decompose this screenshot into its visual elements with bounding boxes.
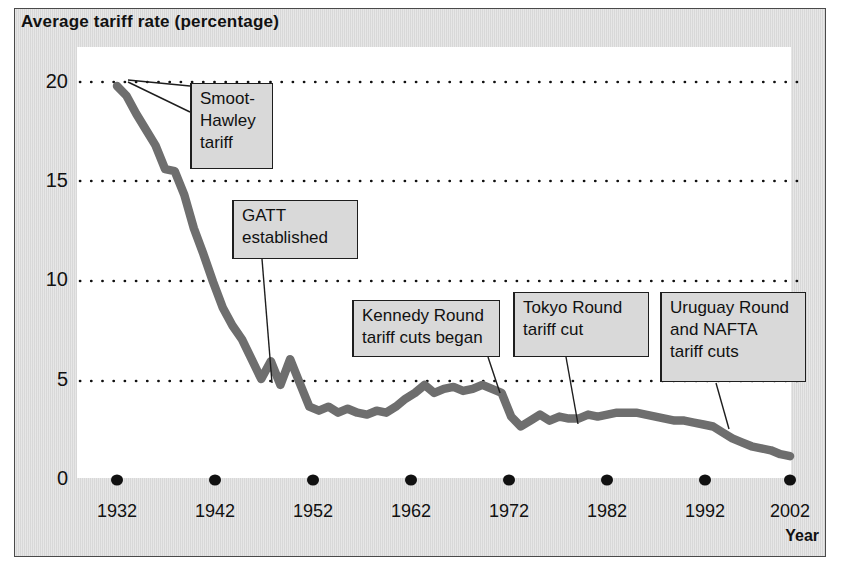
- callout-smoot-hawley: Smoot- Hawley tariff: [190, 83, 273, 169]
- x-axis-tick-dots: [111, 475, 796, 486]
- y-tick-label-5: 5: [22, 368, 68, 391]
- leader-tokyo: [566, 357, 578, 424]
- x-tick-label-1972: 1972: [469, 501, 549, 522]
- callout-kennedy-round: Kennedy Round tariff cuts began: [352, 300, 500, 357]
- x-axis-title: Year: [785, 527, 819, 545]
- callout-gatt-established: GATT established: [232, 200, 358, 259]
- callout-smoot-hawley-line-3: tariff: [200, 132, 263, 154]
- callout-tokyo-line-1: Tokyo Round: [523, 297, 639, 319]
- tick-dot-1982: [601, 475, 613, 486]
- callout-uruguay-line-2: and NAFTA: [670, 319, 796, 341]
- x-tick-label-1932: 1932: [77, 501, 157, 522]
- tick-dot-1952: [307, 475, 319, 486]
- callout-uruguay-line-1: Uruguay Round: [670, 297, 796, 319]
- tick-dot-1972: [503, 475, 515, 486]
- callout-gatt-line-2: established: [242, 227, 348, 249]
- tick-dot-1992: [699, 475, 711, 486]
- callout-gatt-line-1: GATT: [242, 205, 348, 227]
- x-tick-label-1992: 1992: [665, 501, 745, 522]
- y-tick-label-0: 0: [22, 467, 68, 490]
- x-tick-label-1982: 1982: [567, 501, 647, 522]
- callout-uruguay-line-3: tariff cuts: [670, 341, 796, 363]
- callout-kennedy-line-1: Kennedy Round: [362, 305, 490, 327]
- tick-dot-2002: [784, 475, 796, 486]
- callout-uruguay-round-nafta: Uruguay Round and NAFTA tariff cuts: [660, 292, 806, 382]
- x-tick-label-1952: 1952: [273, 501, 353, 522]
- tariff-rate-figure: Average tariff rate (percentage): [0, 0, 841, 565]
- x-tick-label-1962: 1962: [371, 501, 451, 522]
- x-tick-label-1942: 1942: [175, 501, 255, 522]
- callout-tokyo-round: Tokyo Round tariff cut: [513, 292, 649, 357]
- tick-dot-1962: [405, 475, 417, 486]
- tick-dot-1932: [111, 475, 123, 486]
- y-tick-label-20: 20: [22, 70, 68, 93]
- tick-dot-1942: [209, 475, 221, 486]
- y-tick-label-10: 10: [22, 268, 68, 291]
- chart-canvas: [0, 0, 841, 565]
- callout-kennedy-line-2: tariff cuts began: [362, 327, 490, 349]
- leader-uruguay: [716, 383, 729, 429]
- x-tick-label-2002: 2002: [750, 501, 830, 522]
- callout-smoot-hawley-line-2: Hawley: [200, 110, 263, 132]
- callout-tokyo-line-2: tariff cut: [523, 319, 639, 341]
- callout-smoot-hawley-line-1: Smoot-: [200, 88, 263, 110]
- y-tick-label-15: 15: [22, 169, 68, 192]
